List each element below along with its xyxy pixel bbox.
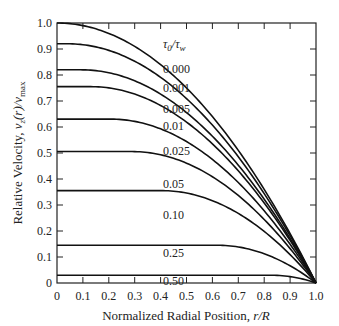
x-tick-label: 0.1 (75, 289, 90, 303)
x-tick-label: 0.9 (283, 289, 298, 303)
curve-label: 0.000 (163, 62, 190, 76)
x-tick-label: 0.4 (153, 289, 168, 303)
x-axis-title: Normalized Radial Position, r/R (102, 308, 270, 323)
y-tick-label: 0.4 (37, 172, 52, 186)
curve-labels: 0.0000.0010.0050.010.0250.050.100.250.50 (163, 62, 190, 288)
x-tick-label: 0.7 (231, 289, 246, 303)
y-tick-label: 0.7 (37, 94, 52, 108)
y-tick-label: 1.0 (37, 16, 52, 30)
x-tick-labels: 00.10.20.30.40.50.60.70.80.91.0 (54, 289, 324, 303)
curve-label: 0.025 (163, 144, 190, 158)
y-axis-title: Relative Velocity, vz(r)/vmax (10, 81, 27, 225)
x-tick-label: 0 (54, 289, 60, 303)
y-tick-labels: 00.10.20.30.40.50.60.70.80.91.0 (37, 16, 52, 290)
curve-label: 0.10 (163, 208, 184, 222)
x-tick-label: 1.0 (309, 289, 324, 303)
y-tick-label: 0 (46, 276, 52, 290)
curve-label: 0.25 (163, 246, 184, 260)
y-tick-label: 0.6 (37, 120, 52, 134)
curve-label: 0.001 (163, 81, 190, 95)
x-tick-label: 0.3 (127, 289, 142, 303)
x-tick-label: 0.5 (179, 289, 194, 303)
curve-label: 0.50 (163, 274, 184, 288)
legend-title: τ0/τw (163, 37, 185, 53)
curve-0.10 (57, 191, 316, 283)
velocity-profile-chart: 00.10.20.30.40.50.60.70.80.91.0 00.10.20… (0, 0, 339, 326)
curve-label: 0.005 (163, 102, 190, 116)
y-tick-label: 0.5 (37, 146, 52, 160)
y-tick-label: 0.1 (37, 250, 52, 264)
y-tick-label: 0.2 (37, 224, 52, 238)
x-tick-label: 0.2 (101, 289, 116, 303)
x-tick-label: 0.6 (205, 289, 220, 303)
y-tick-label: 0.3 (37, 198, 52, 212)
y-tick-label: 0.8 (37, 68, 52, 82)
x-tick-label: 0.8 (257, 289, 272, 303)
y-tick-label: 0.9 (37, 42, 52, 56)
curve-label: 0.01 (163, 119, 184, 133)
curve-0.01 (57, 87, 316, 283)
curve-label: 0.05 (163, 177, 184, 191)
